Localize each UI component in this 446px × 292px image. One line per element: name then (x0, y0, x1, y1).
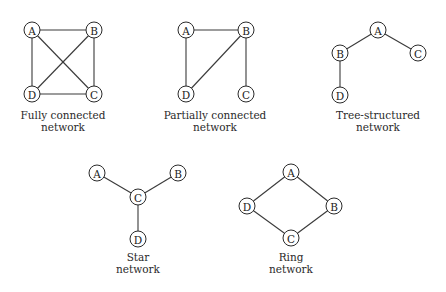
node-B: B (238, 22, 254, 38)
node-label: C (90, 89, 98, 101)
caption-line: network (145, 121, 285, 133)
node-D: D (178, 86, 194, 102)
node-label: D (243, 201, 251, 213)
caption-line: Star (68, 251, 208, 263)
network-topologies-diagram: ABCDABCDABCDABCDABCD (0, 0, 446, 292)
node-label: A (373, 25, 382, 37)
caption-line: Tree-structured (308, 109, 446, 121)
node-B: B (332, 45, 348, 61)
caption-line: Partially connected (145, 109, 285, 121)
node-B: B (170, 165, 186, 181)
ring-caption: Ringnetwork (221, 251, 361, 275)
fully-network: ABCD (24, 22, 102, 102)
node-label: C (242, 89, 250, 101)
node-label: B (336, 48, 344, 60)
node-A: A (24, 22, 40, 38)
fully-caption: Fully connectednetwork (0, 109, 133, 133)
node-C: C (86, 86, 102, 102)
node-label: D (28, 89, 36, 101)
node-D: D (239, 198, 255, 214)
node-B: B (326, 198, 342, 214)
node-A: A (89, 165, 105, 181)
node-label: A (27, 25, 36, 37)
star-network: ABCD (89, 165, 186, 247)
node-label: B (330, 201, 338, 213)
node-A: A (178, 22, 194, 38)
node-label: C (414, 48, 422, 60)
node-B: B (86, 22, 102, 38)
node-label: C (134, 192, 142, 204)
node-label: D (134, 234, 142, 246)
node-C: C (238, 86, 254, 102)
node-label: D (336, 90, 344, 102)
node-label: A (181, 25, 190, 37)
node-label: B (90, 25, 98, 37)
node-label: D (182, 89, 190, 101)
caption-line: network (0, 121, 133, 133)
tree-network: ABCD (332, 22, 426, 103)
caption-line: Fully connected (0, 109, 133, 121)
node-A: A (370, 22, 386, 38)
node-C: C (410, 45, 426, 61)
node-label: B (174, 168, 182, 180)
partial-caption: Partially connectednetwork (145, 109, 285, 133)
node-D: D (24, 86, 40, 102)
caption-line: network (68, 263, 208, 275)
node-label: B (242, 25, 250, 37)
node-C: C (130, 189, 146, 205)
node-label: A (286, 167, 295, 179)
edge-B-D (186, 30, 246, 94)
partial-network: ABCD (178, 22, 254, 102)
ring-network: ABCD (239, 164, 342, 246)
node-D: D (332, 87, 348, 103)
tree-caption: Tree-structurednetwork (308, 109, 446, 133)
node-label: A (92, 168, 101, 180)
node-A: A (283, 164, 299, 180)
caption-line: network (221, 263, 361, 275)
caption-line: Ring (221, 251, 361, 263)
caption-line: network (308, 121, 446, 133)
node-label: C (287, 233, 295, 245)
star-caption: Starnetwork (68, 251, 208, 275)
node-D: D (130, 231, 146, 247)
node-C: C (283, 230, 299, 246)
